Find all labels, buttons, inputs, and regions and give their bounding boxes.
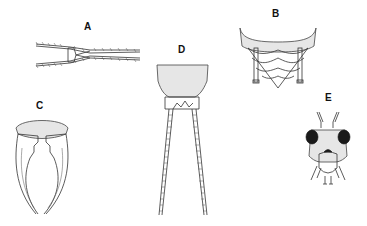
abdomen-base — [240, 28, 316, 52]
abdomen-segment — [157, 65, 208, 97]
cercus-right — [297, 48, 303, 83]
eye-right — [338, 130, 350, 144]
panel-d-abdomen-drawing — [155, 65, 210, 223]
abdomen-apex — [16, 121, 68, 139]
cercus-right — [192, 109, 207, 215]
eye-left — [306, 130, 318, 144]
terminal-plate — [165, 97, 199, 109]
forceps-right — [44, 134, 68, 214]
panel-label-b: B — [272, 8, 279, 19]
panel-c-forceps-drawing — [12, 118, 72, 218]
panel-e-head-drawing — [303, 112, 353, 192]
cercus-left — [253, 48, 259, 83]
panel-a-cerci-drawing — [30, 38, 145, 73]
panel-label-d: D — [178, 44, 185, 55]
antenna-right — [333, 112, 339, 128]
panel-label-c: C — [36, 100, 43, 111]
forceps-left — [16, 134, 38, 214]
cerci-base — [68, 48, 90, 62]
antenna-left — [317, 112, 323, 128]
mouthparts — [311, 166, 345, 184]
panel-label-e: E — [325, 92, 332, 103]
panel-b-abdomen-drawing — [238, 28, 318, 90]
cercus-left — [159, 109, 173, 215]
panel-label-a: A — [84, 21, 91, 32]
